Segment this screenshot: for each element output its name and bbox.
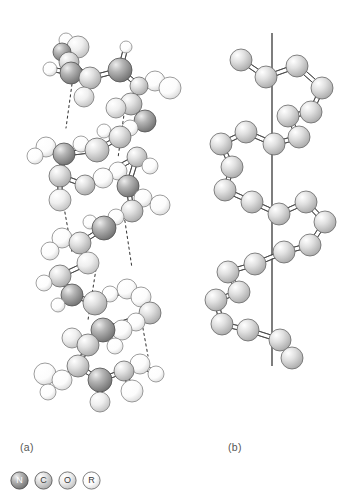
panel-a-atoms bbox=[27, 33, 181, 412]
legend-item-nitrogen: N bbox=[10, 471, 29, 490]
nitrogen-sphere-icon bbox=[10, 471, 29, 490]
legend-item-oxygen: O bbox=[58, 471, 77, 490]
legend-item-side-chain: R bbox=[82, 471, 101, 490]
panel-label-b: (b) bbox=[228, 441, 242, 453]
atom-type-legend: NCOR bbox=[10, 468, 101, 492]
carbon-sphere-icon bbox=[34, 471, 53, 490]
oxygen-sphere-icon bbox=[58, 471, 77, 490]
molecular-figure bbox=[0, 0, 350, 494]
legend-item-carbon: C bbox=[34, 471, 53, 490]
panel-label-a: (a) bbox=[20, 441, 34, 453]
side-chain-sphere-icon bbox=[82, 471, 101, 490]
panel-b-atoms bbox=[205, 49, 336, 369]
